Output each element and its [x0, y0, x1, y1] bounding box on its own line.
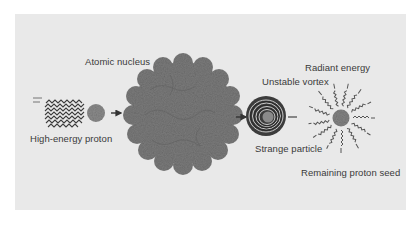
label-strange-particle: Strange particle: [255, 143, 322, 154]
proton-icon: [87, 104, 105, 122]
proton-tail-icon: [33, 98, 84, 127]
label-radiant-energy: Radiant energy: [305, 62, 370, 73]
label-atomic-nucleus: Atomic nucleus: [85, 56, 150, 67]
label-unstable-vortex: Unstable vortex: [262, 76, 329, 87]
label-remaining-proton-seed: Remaining proton seed: [301, 167, 400, 178]
collision-diagram: [0, 0, 418, 225]
proton-seed-icon: [333, 110, 350, 127]
label-high-energy-proton: High-energy proton: [30, 133, 112, 144]
atomic-nucleus-icon: [123, 53, 243, 175]
vortex-icon: [246, 96, 286, 136]
